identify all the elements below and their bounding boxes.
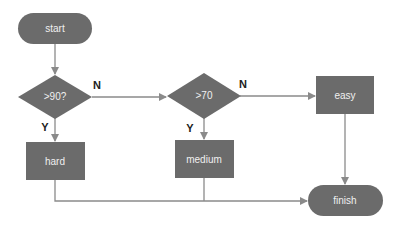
edge-hard-to-finish <box>55 180 307 201</box>
node-medium[interactable]: medium <box>175 140 234 178</box>
node-start-label: start <box>45 23 65 34</box>
node-easy[interactable]: easy <box>316 76 374 114</box>
node-start[interactable]: start <box>18 13 92 44</box>
node-decision-90-label: >90? <box>44 91 67 102</box>
node-finish[interactable]: finish <box>308 185 383 216</box>
node-finish-label: finish <box>333 195 356 206</box>
node-decision-70-label: >70 <box>196 90 213 101</box>
edge-label-y1: Y <box>41 121 49 133</box>
node-decision-70[interactable]: >70 <box>167 73 241 119</box>
edge-label-n2: N <box>239 78 247 90</box>
node-medium-label: medium <box>186 154 222 165</box>
node-hard-label: hard <box>45 156 65 167</box>
node-hard[interactable]: hard <box>26 142 85 180</box>
edge-label-y2: Y <box>186 122 194 134</box>
flowchart-canvas: start >90? >70 easy hard medium finish N… <box>0 0 401 230</box>
node-decision-90[interactable]: >90? <box>18 75 92 119</box>
node-easy-label: easy <box>334 90 355 101</box>
edge-label-n1: N <box>93 79 101 91</box>
